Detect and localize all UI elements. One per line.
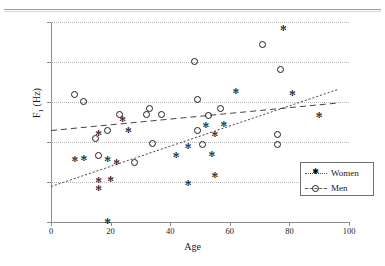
trend-line-men xyxy=(51,103,340,131)
x-tick-label: 60 xyxy=(215,226,245,236)
x-tick-mark xyxy=(51,222,52,226)
x-tick-mark xyxy=(289,222,290,226)
x-tick-mark xyxy=(170,222,171,226)
y-tick-mark xyxy=(47,62,51,63)
legend-item-men[interactable]: Men xyxy=(305,181,348,195)
x-tick-label: 0 xyxy=(36,226,66,236)
y-axis-title: F1 (Hz) xyxy=(31,63,45,143)
figure-scatter-f1-by-age: ✻✻✻✻✻✻✻✻✻✻✻✻✻✻✻✻✻✻✻✻✻✻✻ 1500165018001950… xyxy=(0,0,385,266)
header-rule-secondary xyxy=(4,11,381,12)
x-tick-label: 80 xyxy=(274,226,304,236)
x-tick-mark xyxy=(230,222,231,226)
legend-swatch-men xyxy=(305,183,327,193)
x-tick-label: 40 xyxy=(155,226,185,236)
y-tick-mark xyxy=(47,102,51,103)
x-tick-label: 20 xyxy=(96,226,126,236)
x-tick-label: 100 xyxy=(334,226,364,236)
legend-label-men: Men xyxy=(331,183,348,193)
x-tick-mark xyxy=(349,222,350,226)
y-tick-mark xyxy=(47,142,51,143)
x-tick-mark xyxy=(111,222,112,226)
y-tick-mark xyxy=(47,182,51,183)
x-axis-title: Age xyxy=(0,241,385,252)
header-rule xyxy=(4,9,381,10)
legend-swatch-women: ✱ xyxy=(305,168,327,178)
y-tick-mark xyxy=(47,22,51,23)
legend-item-women[interactable]: ✱ Women xyxy=(305,166,359,180)
x-axis-line xyxy=(51,222,349,223)
legend[interactable]: ✱ Women Men xyxy=(300,162,374,196)
trend-line-women xyxy=(51,90,337,187)
legend-label-women: Women xyxy=(331,168,359,178)
